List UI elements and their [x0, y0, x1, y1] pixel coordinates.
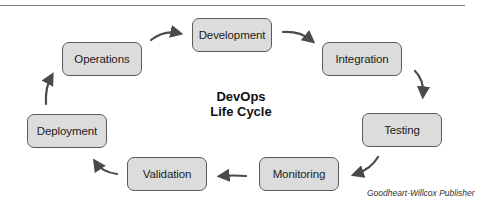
- title-line-1: DevOps: [186, 89, 296, 104]
- stage-label: Operations: [74, 53, 129, 65]
- stage-label: Testing: [384, 124, 420, 136]
- stage-testing: Testing: [362, 113, 442, 147]
- stage-label: Deployment: [37, 125, 97, 137]
- stage-label: Monitoring: [273, 168, 326, 180]
- stage-deployment: Deployment: [27, 114, 107, 148]
- diagram-title: DevOps Life Cycle: [186, 89, 296, 119]
- stage-label: Development: [199, 29, 266, 41]
- arrow-integration-to-testing: [415, 71, 423, 94]
- arrow-validation-to-deployment: [96, 163, 117, 174]
- arrow-monitoring-to-validation: [222, 176, 246, 177]
- publisher-credit: Goodheart-Willcox Publisher: [367, 188, 475, 198]
- arrow-deployment-to-operations: [46, 77, 51, 104]
- title-line-2: Life Cycle: [186, 104, 296, 119]
- stage-operations: Operations: [62, 42, 142, 76]
- arrow-testing-to-monitoring: [356, 157, 378, 174]
- stage-monitoring: Monitoring: [259, 157, 339, 191]
- stage-label: Integration: [335, 53, 388, 65]
- arrow-development-to-integration: [283, 32, 311, 40]
- arrow-operations-to-development: [151, 32, 178, 40]
- stage-validation: Validation: [127, 157, 207, 191]
- stage-integration: Integration: [322, 42, 402, 76]
- top-divider-line: [0, 5, 465, 6]
- stage-label: Validation: [143, 168, 192, 180]
- stage-development: Development: [192, 18, 272, 52]
